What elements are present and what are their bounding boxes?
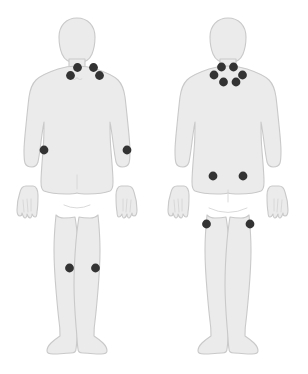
marker-neck-back-far-left[interactable] [210,71,219,80]
marker-elbow-front-right[interactable] [123,146,132,155]
marker-neck-back-left-lower[interactable] [219,78,228,87]
marker-lower-back-left[interactable] [209,172,218,181]
marker-neck-back-far-right[interactable] [238,71,247,80]
back-body-silhouette [154,0,308,374]
marker-neck-front-right-upper[interactable] [89,63,98,72]
marker-neck-front-right-lower[interactable] [95,71,104,80]
marker-neck-back-right-lower[interactable] [232,78,241,87]
back-body-figure[interactable] [154,0,308,374]
marker-neck-front-left-lower[interactable] [66,71,75,80]
front-body-figure[interactable] [0,0,154,374]
marker-neck-front-left-upper[interactable] [73,63,82,72]
front-body-silhouette [0,0,154,374]
marker-knee-front-left[interactable] [65,264,74,273]
marker-thigh-back-right[interactable] [246,220,255,229]
marker-lower-back-right[interactable] [239,172,248,181]
marker-thigh-back-left[interactable] [202,220,211,229]
marker-neck-back-right-upper[interactable] [229,63,238,72]
body-pain-point-diagram [0,0,308,374]
marker-neck-back-left-upper[interactable] [217,63,226,72]
marker-elbow-front-left[interactable] [40,146,49,155]
marker-knee-front-right[interactable] [91,264,100,273]
